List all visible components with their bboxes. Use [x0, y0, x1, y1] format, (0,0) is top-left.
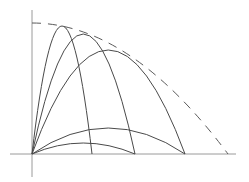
trajectory-group [32, 26, 185, 154]
trajectory-mid [32, 50, 185, 154]
trajectory-low-1 [32, 128, 185, 154]
trajectory-steep-1 [32, 26, 92, 154]
trajectory-diagram [0, 0, 249, 182]
